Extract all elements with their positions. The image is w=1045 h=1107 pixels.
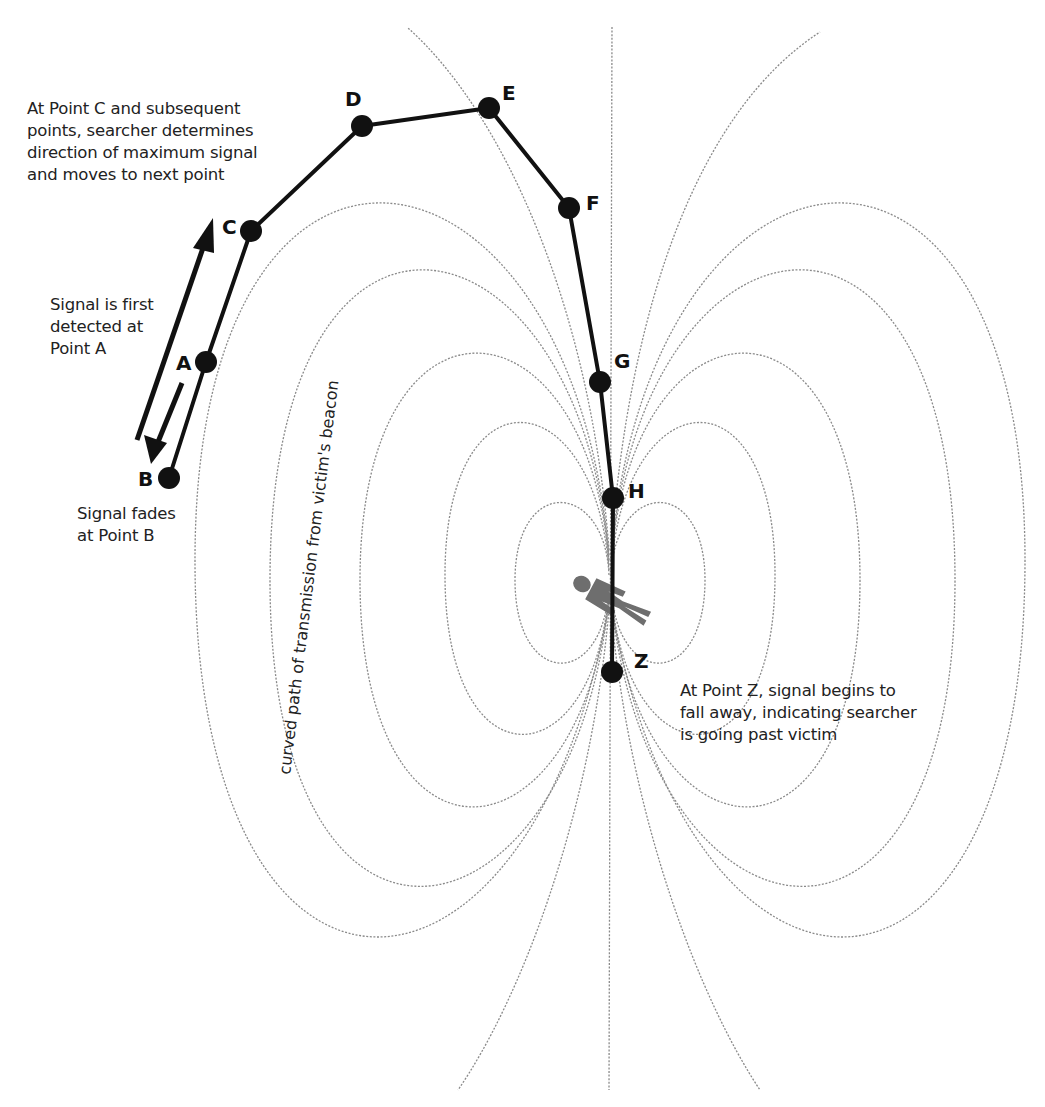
point-d [351,115,373,137]
field-loop-right-4 [611,270,955,887]
annotation-point-b: Signal fades at Point B [77,503,176,547]
point-e [478,97,500,119]
label-f: F [586,191,600,215]
point-a [195,351,217,373]
label-d: D [345,87,362,111]
point-z [601,661,623,683]
search-path [169,108,613,672]
point-f [558,197,580,219]
label-b: B [138,467,153,491]
field-loop-left-3 [360,353,609,807]
label-a: A [176,351,192,375]
field-open-left-top [408,28,609,550]
point-c [240,220,262,242]
label-g: G [614,349,630,373]
label-z: Z [634,649,649,673]
field-loop-left-5 [195,203,609,937]
annotation-point-a: Signal is first detected at Point A [50,294,154,360]
label-e: E [502,81,516,105]
field-loop-right-5 [611,203,1025,937]
curve-caption: curved path of transmission from victim'… [275,379,342,775]
search-path-line [169,108,613,672]
label-h: H [628,479,645,503]
point-b [158,467,180,489]
field-loop-right-1 [611,503,705,664]
field-open-right-top [611,32,820,550]
label-c: C [222,215,237,239]
point-g [589,371,611,393]
point-h [602,487,624,509]
annotation-point-c: At Point C and subsequent points, search… [27,98,258,186]
annotation-point-z: At Point Z, signal begins to fall away, … [680,680,917,746]
